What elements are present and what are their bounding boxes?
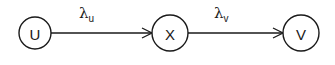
node-v: V [283, 15, 319, 51]
node-x: X [152, 15, 188, 51]
node-label: V [296, 26, 306, 43]
edge-label: λu [79, 4, 94, 24]
node-label: U [30, 26, 41, 43]
edge-x-to-v: λv [188, 4, 283, 38]
edge-label: λv [214, 4, 229, 24]
node-u: U [19, 17, 51, 49]
flow-diagram: λu λv U X V [0, 0, 335, 65]
node-label: X [165, 26, 175, 43]
edge-u-to-x: λu [51, 4, 152, 38]
